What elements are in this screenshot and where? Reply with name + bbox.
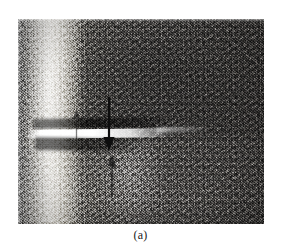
scan-edge-top (18, 19, 264, 22)
figure-root: (a) (0, 0, 281, 248)
figure-caption: (a) (0, 228, 281, 243)
scan-edge-left (18, 19, 22, 224)
print-noise-overlay (18, 19, 264, 224)
micrograph-image (18, 19, 264, 224)
